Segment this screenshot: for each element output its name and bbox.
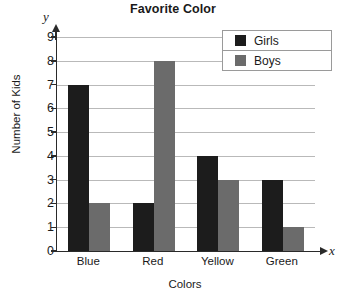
legend: GirlsBoys [222,30,332,71]
bar-blue-boys [89,203,110,251]
bar-blue-girls [68,85,89,251]
category-label-red: Red [142,255,163,267]
gridline [57,108,315,109]
category-label-blue: Blue [77,255,100,267]
legend-item-boys: Boys [223,50,331,70]
legend-label: Boys [254,54,281,68]
bar-chart: Favorite Color y x Number of Kids Colors… [0,0,346,303]
legend-swatch-icon [235,35,246,46]
chart-title: Favorite Color [0,2,346,16]
bar-yellow-girls [197,156,218,251]
gridline [57,132,315,133]
legend-label: Girls [254,34,279,48]
gridline [57,156,315,157]
gridline [57,85,315,86]
bar-green-girls [262,180,283,251]
bar-red-boys [154,61,175,251]
x-axis-title: Colors [50,278,320,290]
bar-yellow-boys [218,180,239,251]
bar-red-girls [133,203,154,251]
category-label-green: Green [266,255,298,267]
y-axis-title: Number of Kids [10,54,22,174]
x-axis-letter: x [329,243,335,259]
legend-swatch-icon [235,55,246,66]
legend-item-girls: Girls [223,31,331,50]
y-axis-letter: y [43,9,49,25]
category-label-yellow: Yellow [201,255,234,267]
bar-green-boys [283,227,304,251]
